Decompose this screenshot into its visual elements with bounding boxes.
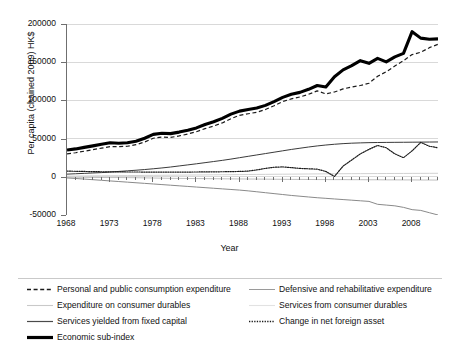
x-tick-mark: [83, 177, 84, 180]
x-tick-mark: [195, 177, 196, 182]
x-tick-mark: [101, 177, 102, 180]
series-line: [67, 173, 438, 176]
legend-swatch-icon: [26, 284, 54, 295]
chart-root: Per capita (chained 2009) HK$ 2000001500…: [0, 0, 459, 347]
legend-swatch-icon: [26, 300, 54, 311]
legend-swatch-icon: [248, 316, 276, 327]
x-tick-mark: [394, 177, 395, 180]
x-tick-mark: [333, 177, 334, 180]
legend-item: Change in net foreign asset: [248, 314, 384, 329]
x-tick-mark: [290, 177, 291, 180]
series-line: [67, 32, 438, 150]
x-tick-mark: [273, 177, 274, 180]
x-tick-mark: [385, 177, 386, 180]
x-tick-label: 1998: [305, 218, 345, 228]
y-tick-label: 100000: [2, 95, 56, 104]
legend-swatch-icon: [248, 284, 276, 295]
x-tick-mark: [92, 177, 93, 180]
x-tick-mark: [144, 177, 145, 180]
y-tick-label: 0: [2, 172, 56, 181]
plot-area: [66, 24, 437, 215]
legend-label: Defensive and rehabilitative expenditure: [279, 284, 432, 295]
x-tick-label: 1973: [89, 218, 129, 228]
x-tick-mark: [221, 177, 222, 180]
x-axis-label: Year: [0, 243, 459, 253]
x-tick-mark: [75, 177, 76, 180]
chart-canvas: Per capita (chained 2009) HK$ 2000001500…: [0, 0, 459, 270]
y-tick-mark: [61, 215, 66, 216]
y-tick-label: 150000: [2, 57, 56, 66]
legend-label: Services yielded from fixed capital: [57, 316, 187, 327]
legend-label: Services from consumer durables: [279, 300, 407, 311]
x-tick-mark: [411, 177, 412, 182]
x-tick-mark: [170, 177, 171, 180]
y-tick-label: 200000: [2, 19, 56, 28]
x-tick-mark: [299, 177, 300, 180]
x-tick-mark: [109, 177, 110, 182]
x-tick-mark: [204, 177, 205, 180]
legend-item: Services yielded from fixed capital: [26, 314, 187, 329]
x-tick-label: 2008: [391, 218, 431, 228]
legend-swatch-icon: [248, 300, 276, 311]
x-tick-mark: [239, 177, 240, 182]
legend-label: Personal and public consumption expendit…: [57, 284, 231, 295]
x-tick-mark: [126, 177, 127, 180]
x-tick-mark: [402, 177, 403, 180]
y-tick-label: 50000: [2, 134, 56, 143]
x-tick-mark: [213, 177, 214, 180]
y-axis-label: Per capita (chained 2009) HK$: [26, 8, 36, 178]
x-tick-label: 1993: [262, 218, 302, 228]
series-line: [67, 177, 438, 180]
x-tick-mark: [66, 177, 67, 182]
x-tick-label: 2003: [348, 218, 388, 228]
x-tick-mark: [351, 177, 352, 180]
legend-item: Personal and public consumption expendit…: [26, 282, 231, 297]
legend-item: Expenditure on consumer durables: [26, 298, 190, 313]
x-tick-mark: [264, 177, 265, 180]
legend-label: Economic sub-index: [57, 332, 134, 343]
x-tick-mark: [118, 177, 119, 180]
x-tick-mark: [437, 177, 438, 180]
x-tick-mark: [161, 177, 162, 180]
series-line: [67, 178, 438, 215]
x-tick-mark: [377, 177, 378, 180]
legend-label: Expenditure on consumer durables: [57, 300, 190, 311]
x-tick-mark: [247, 177, 248, 180]
x-tick-mark: [308, 177, 309, 180]
legend-swatch-icon: [26, 316, 54, 327]
x-tick-mark: [178, 177, 179, 180]
legend-swatch-icon: [26, 332, 54, 343]
x-tick-label: 1988: [219, 218, 259, 228]
legend-divider: [18, 278, 442, 279]
legend-item: Economic sub-index: [26, 330, 134, 345]
x-tick-mark: [135, 177, 136, 180]
x-tick-mark: [428, 177, 429, 180]
x-tick-mark: [368, 177, 369, 182]
x-tick-label: 1978: [132, 218, 172, 228]
x-tick-label: 1968: [46, 218, 86, 228]
x-tick-mark: [152, 177, 153, 182]
x-tick-mark: [282, 177, 283, 182]
series-svg: [67, 24, 438, 215]
x-tick-mark: [359, 177, 360, 180]
x-tick-mark: [256, 177, 257, 180]
x-tick-mark: [325, 177, 326, 182]
x-tick-mark: [420, 177, 421, 180]
x-tick-label: 1983: [175, 218, 215, 228]
chart-legend: Personal and public consumption expendit…: [0, 278, 459, 344]
x-tick-mark: [342, 177, 343, 180]
legend-item: Defensive and rehabilitative expenditure: [248, 282, 432, 297]
legend-item: Services from consumer durables: [248, 298, 407, 313]
x-tick-mark: [187, 177, 188, 180]
x-tick-mark: [230, 177, 231, 180]
x-tick-mark: [316, 177, 317, 180]
legend-label: Change in net foreign asset: [279, 316, 384, 327]
